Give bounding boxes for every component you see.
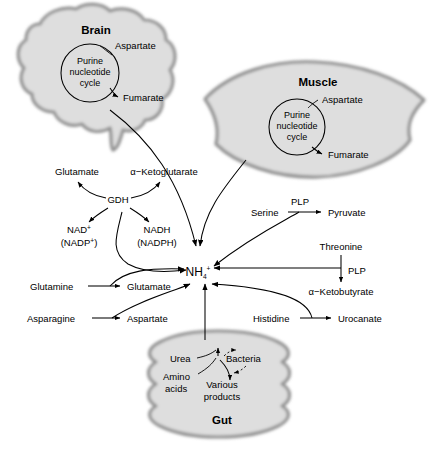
cycle-line-purine-muscle: Purine — [284, 110, 310, 120]
nadp-label: (NADP+) — [61, 237, 98, 249]
amino-label: Amino — [163, 371, 190, 382]
ammonium-node-label: NH4+ — [186, 265, 211, 280]
alpha-ketoglutarate-label: α−Ketoglutarate — [130, 166, 198, 177]
muscle-to-ammonium-arrow — [200, 160, 246, 246]
urea-label: Urea — [170, 353, 191, 364]
threonine-label: Threonine — [320, 241, 363, 252]
cycle-line-cycle-muscle: cycle — [287, 132, 308, 142]
gdh-to-nad-arrow — [89, 208, 108, 222]
glutamine-reaction-group: Glutamine Glutamate — [30, 269, 184, 292]
brain-aspartate-label: Aspartate — [115, 40, 156, 51]
histidine-label: Histidine — [253, 313, 289, 324]
organ-gut: Gut Urea Bacteria Amino acids Various pr… — [149, 331, 290, 437]
nadph-label: (NADPH) — [137, 237, 177, 248]
muscle-aspartate-label: Aspartate — [322, 94, 363, 105]
organ-brain: Brain Purine nucleotide cycle Aspartate … — [18, 4, 175, 150]
gdh-to-ketoglutarate-arrow — [131, 182, 160, 198]
organ-muscle: Muscle Purine nucleotide cycle Aspartate… — [205, 62, 424, 177]
organ-label-gut: Gut — [212, 414, 232, 426]
pyruvate-label: Pyruvate — [328, 207, 366, 218]
muscle-fumarate-label: Fumarate — [328, 149, 369, 160]
organ-label-brain: Brain — [81, 24, 110, 36]
threonine-plp-label: PLP — [348, 265, 366, 276]
bacteria-label: Bacteria — [226, 353, 262, 364]
brain-fumarate-label: Fumarate — [123, 92, 164, 103]
glutamine-label: Glutamine — [30, 281, 73, 292]
urocanate-label: Urocanate — [338, 313, 382, 324]
cycle-line-purine-brain: Purine — [77, 56, 103, 66]
organ-label-muscle: Muscle — [299, 76, 338, 88]
gdh-reaction-group: Glutamate α−Ketoglutarate GDH NAD+ (NADP… — [55, 166, 198, 272]
asparagine-label: Asparagine — [27, 313, 75, 324]
nadh-label: NADH — [144, 224, 171, 235]
various-label: Various — [206, 379, 238, 390]
serine-plp-label: PLP — [291, 196, 309, 207]
gdh-to-glutamate-arrow — [78, 182, 106, 198]
cycle-line-nucleotide-muscle: nucleotide — [276, 121, 317, 131]
serine-to-ammonium-arrow — [214, 212, 299, 266]
serine-label: Serine — [251, 207, 278, 218]
aspartate2-label: Aspartate — [127, 313, 168, 324]
threonine-reaction-group: Threonine PLP α−Ketobutyrate — [214, 241, 373, 297]
acids-label: acids — [165, 383, 187, 394]
ammonia-sources-diagram: Brain Purine nucleotide cycle Aspartate … — [0, 0, 446, 453]
gdh-enzyme-label: GDH — [107, 194, 128, 205]
gdh-to-nadh-arrow — [130, 208, 149, 222]
cycle-line-cycle-brain: cycle — [80, 78, 101, 88]
products-label: products — [204, 391, 241, 402]
alpha-ketobutyrate-label: α−Ketobutyrate — [309, 286, 374, 297]
glutamate2-label: Glutamate — [127, 281, 171, 292]
serine-reaction-group: Serine PLP Pyruvate — [214, 196, 366, 266]
cycle-line-nucleotide-brain: nucleotide — [69, 67, 110, 77]
nad-label: NAD+ — [67, 224, 91, 236]
glutamate-label: Glutamate — [55, 166, 99, 177]
